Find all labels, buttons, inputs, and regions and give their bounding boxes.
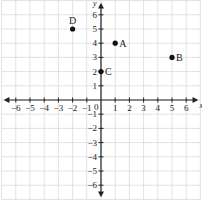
coordinate-plane: xy−6−5−4−3−2−10123456−6−5−4−3−2−1123456 …	[0, 0, 202, 203]
y-axis-label: y	[92, 0, 97, 8]
y-tick-label: −4	[87, 152, 97, 162]
x-tick-label: 4	[156, 103, 161, 113]
point-c-marker	[98, 69, 103, 74]
x-tick-label: 6	[184, 103, 189, 113]
x-tick-label: −5	[25, 103, 35, 113]
y-tick-label: −2	[87, 123, 97, 133]
x-tick-label: 1	[113, 103, 118, 113]
point-d-label: D	[69, 15, 76, 26]
tick-labels: xy−6−5−4−3−2−10123456−6−5−4−3−2−1123456	[11, 0, 202, 190]
y-tick-label: 2	[93, 67, 98, 77]
x-tick-label: −4	[39, 103, 49, 113]
point-c-label: C	[105, 66, 112, 77]
point-d-marker	[70, 26, 75, 31]
y-tick-label: −6	[87, 180, 97, 190]
x-axis-arrow-left-icon	[4, 97, 10, 103]
coordinate-plane-svg: xy−6−5−4−3−2−10123456−6−5−4−3−2−1123456 …	[0, 0, 202, 203]
y-tick-label: −3	[87, 138, 97, 148]
x-tick-label: 2	[127, 103, 132, 113]
y-tick-label: 5	[93, 24, 98, 34]
y-tick-label: −1	[87, 109, 97, 119]
y-tick-label: 3	[93, 52, 98, 62]
point-a-label: A	[119, 38, 127, 49]
point-b-marker	[169, 55, 174, 60]
y-tick-label: 6	[93, 10, 98, 20]
y-axis-arrow-down-icon	[98, 192, 104, 198]
axes	[4, 3, 199, 198]
x-tick-label: −3	[54, 103, 64, 113]
plotted-points: ABCD	[69, 15, 183, 77]
x-tick-label: −2	[68, 103, 78, 113]
x-tick-label: 3	[141, 103, 146, 113]
point-b-label: B	[176, 52, 183, 63]
x-axis-label: x	[199, 101, 202, 110]
y-axis-arrow-up-icon	[98, 3, 104, 9]
y-tick-label: 1	[93, 81, 98, 91]
x-tick-label: 5	[170, 103, 175, 113]
x-axis-arrow-right-icon	[193, 97, 199, 103]
y-tick-label: 4	[93, 38, 98, 48]
x-tick-label: −6	[11, 103, 21, 113]
y-tick-label: −5	[87, 166, 97, 176]
point-a-marker	[113, 41, 118, 46]
